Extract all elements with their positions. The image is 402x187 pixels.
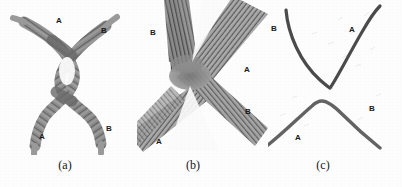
panel-c-illustration: [268, 0, 402, 155]
bundle-b-upper-core: [164, 0, 197, 62]
filament-lower-inverted-v: [268, 101, 380, 148]
caption-panel-b: (b): [163, 159, 223, 172]
label-panel-b-bundle-a-right: A: [244, 66, 250, 74]
strand-group-a: [13, 17, 117, 154]
figure-panel-group: A B A B B A B A B A A B (a) (b) (c): [0, 0, 402, 187]
label-panel-c-filament-a-top: A: [349, 26, 355, 34]
node-upper-lobe: [171, 55, 203, 73]
label-panel-b-bundle-b-right: B: [245, 108, 251, 116]
paper-texture-marks: [280, 12, 381, 126]
label-panel-a-strand-a-bottom: A: [39, 133, 45, 141]
caption-panel-a: (a): [35, 159, 95, 172]
label-panel-a-strand-b-bottom: B: [106, 125, 112, 133]
label-panel-a-strand-b-top: B: [101, 27, 107, 35]
label-panel-c-filament-b-top: B: [271, 25, 277, 33]
label-panel-b-bundle-a-left: A: [156, 138, 162, 146]
filament-group-c: [268, 6, 381, 148]
panel-b-image: [137, 0, 268, 155]
label-panel-a-strand-a-top: A: [56, 17, 62, 25]
caption-panel-c: (c): [293, 159, 353, 172]
label-panel-c-filament-a-bottom: A: [295, 134, 301, 142]
strand-tip-upper-right: [106, 17, 117, 26]
strand-tip-upper-left: [13, 18, 24, 22]
strand-tip-lower-left: [34, 146, 35, 154]
strand-crossing-top: [52, 40, 72, 56]
label-panel-b-bundle-b-top: B: [150, 29, 156, 37]
fiber-bundle-group-b: [137, 0, 268, 152]
label-panel-c-filament-b-bottom: B: [369, 105, 375, 113]
panel-c-image: [268, 0, 402, 155]
panel-b-illustration: [137, 0, 268, 155]
knot-loop-opening: [59, 57, 75, 85]
filament-upper-v: [286, 6, 380, 88]
